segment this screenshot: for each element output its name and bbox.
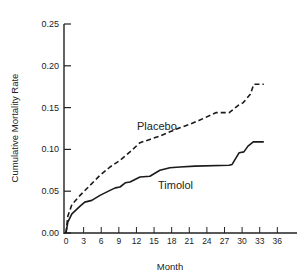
x-tick-label: 36 — [273, 236, 283, 246]
y-tick-label: 0.15 — [41, 103, 59, 113]
x-tick-label: 30 — [237, 236, 247, 246]
x-tick-label: 12 — [132, 236, 142, 246]
chart-canvas: 0.000.050.100.150.200.25 036912151821242… — [0, 0, 308, 279]
x-tick-label: 3 — [81, 236, 86, 246]
y-tick-label: 0.25 — [41, 19, 59, 29]
x-axis: 0369121518212427303336 — [64, 227, 297, 246]
x-tick-label: 15 — [149, 236, 159, 246]
x-tick-label: 6 — [99, 236, 104, 246]
x-tick-label: 24 — [202, 236, 212, 246]
y-tick-label: 0.00 — [41, 228, 59, 238]
x-tick-label: 27 — [220, 236, 230, 246]
x-tick-label: 33 — [255, 236, 265, 246]
timolol-series-label: Timolol — [158, 179, 193, 191]
x-tick-label: 0 — [64, 236, 69, 246]
x-axis-title: Month — [157, 261, 183, 272]
placebo-curve — [66, 84, 264, 233]
x-tick-label: 9 — [116, 236, 121, 246]
series-layer — [66, 84, 264, 233]
x-tick-label: 21 — [185, 236, 195, 246]
y-tick-label: 0.10 — [41, 144, 59, 154]
y-axis: 0.000.050.100.150.200.25 — [41, 19, 71, 238]
y-tick-label: 0.20 — [41, 61, 59, 71]
placebo-series-label: Placebo — [137, 120, 177, 132]
y-tick-label: 0.05 — [41, 186, 59, 196]
y-axis-title: Cumulative Mortality Rate — [9, 74, 20, 183]
x-tick-label: 18 — [167, 236, 177, 246]
mortality-chart: 0.000.050.100.150.200.25 036912151821242… — [0, 0, 308, 279]
